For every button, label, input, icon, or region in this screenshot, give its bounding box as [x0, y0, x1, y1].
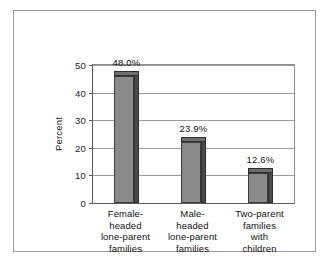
category-label-line: Two-parent — [235, 208, 284, 220]
category-label: Female-headedlone-parentfamilies — [101, 208, 150, 254]
chart-figure: Percent 01020304050 48.0%23.9%12.6% Fema… — [0, 0, 334, 265]
bar-side-face — [134, 74, 139, 203]
bar-value-label: 12.6% — [247, 154, 275, 165]
category-label-line: Male- — [168, 208, 217, 220]
y-tick-label: 10 — [75, 170, 86, 181]
bar-side-face — [268, 171, 273, 203]
category-label-line: families — [235, 220, 284, 232]
bar-front-face — [181, 142, 201, 203]
y-tick-label: 50 — [75, 60, 86, 71]
bar — [248, 168, 268, 203]
y-axis-label: Percent — [53, 117, 64, 151]
category-label: Male-headedlone-parentfamilies — [168, 208, 217, 254]
bar — [181, 137, 201, 203]
y-tick-mark — [89, 120, 93, 121]
bar-value-label: 23.9% — [180, 123, 208, 134]
category-label-line: headed — [101, 220, 150, 232]
y-tick-label: 0 — [81, 198, 86, 209]
y-tick-label: 40 — [75, 87, 86, 98]
y-tick-mark — [89, 65, 93, 66]
y-tick-mark — [89, 175, 93, 176]
plot-area: 01020304050 48.0%23.9%12.6% — [92, 64, 295, 204]
category-label-line: with — [235, 231, 284, 243]
bar-value-label: 48.0% — [113, 57, 141, 68]
category-label-line: families — [168, 243, 217, 255]
y-tick-label: 30 — [75, 115, 86, 126]
y-tick-mark — [89, 93, 93, 94]
bar-front-face — [248, 173, 268, 203]
category-label-line: lone-parent — [168, 231, 217, 243]
category-label: Two-parentfamilieswithchildren — [235, 208, 284, 254]
y-tick-mark — [89, 148, 93, 149]
category-label-line: Female- — [101, 208, 150, 220]
y-tick-label: 20 — [75, 142, 86, 153]
bar-side-face — [201, 140, 206, 203]
category-label-line: headed — [168, 220, 217, 232]
bar-front-face — [114, 76, 134, 203]
figure-border: Percent 01020304050 48.0%23.9%12.6% Fema… — [13, 10, 316, 252]
category-label-line: families — [101, 243, 150, 255]
bar — [114, 71, 134, 203]
y-tick-mark — [89, 203, 93, 204]
category-label-line: lone-parent — [101, 231, 150, 243]
category-label-line: children — [235, 243, 284, 255]
